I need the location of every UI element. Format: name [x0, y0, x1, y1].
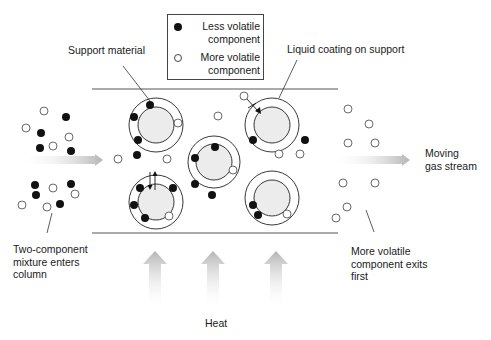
label-line: Moving: [425, 147, 477, 160]
less-volatile-particle: [67, 147, 75, 155]
less-volatile-particle: [130, 201, 138, 209]
more-volatile-particle: [165, 212, 173, 220]
less-volatile-particle: [134, 136, 142, 144]
less-volatile-particle: [36, 144, 44, 152]
less-volatile-particle: [32, 191, 40, 199]
label-moving-gas-stream: Moving gas stream: [425, 147, 477, 172]
more-volatile-particle: [214, 112, 222, 120]
less-volatile-particle: [254, 211, 262, 219]
more-volatile-particle: [240, 92, 248, 100]
more-volatile-particle: [371, 179, 379, 187]
more-volatile-particle: [163, 155, 171, 163]
more-volatile-particle: [65, 133, 73, 141]
heat-arrow: [143, 251, 167, 310]
more-volatile-particle: [283, 210, 291, 218]
less-volatile-particle: [146, 101, 154, 109]
more-volatile-particle: [275, 150, 283, 158]
heat-arrow: [264, 251, 288, 310]
less-volatile-particle: [37, 129, 45, 137]
more-volatile-particle: [343, 203, 351, 211]
more-volatile-particle: [114, 155, 122, 163]
label-liquid-coating: Liquid coating on support: [287, 43, 404, 56]
label-line: More volatile: [351, 245, 427, 258]
label-heat: Heat: [205, 317, 227, 330]
label-line: mixture enters: [13, 256, 88, 269]
less-volatile-particle: [133, 151, 141, 159]
more-volatile-particle: [344, 139, 352, 147]
heat-arrow: [201, 251, 225, 310]
label-line: gas stream: [425, 160, 477, 173]
less-volatile-particle: [249, 201, 257, 209]
more-volatile-particle: [22, 124, 30, 132]
support-bead: [245, 171, 299, 225]
label-support-material: Support material: [68, 44, 145, 57]
less-volatile-particle: [67, 180, 75, 188]
less-volatile-particle: [211, 143, 219, 151]
support-core: [138, 107, 174, 143]
less-volatile-particle: [136, 184, 144, 192]
less-volatile-particle: [130, 113, 138, 121]
more-volatile-particle: [371, 139, 379, 147]
more-volatile-particle: [365, 120, 373, 128]
open-circle-icon: [174, 54, 182, 62]
label-volatile-exits-first: More volatile component exits first: [351, 245, 427, 283]
less-volatile-particle: [191, 154, 199, 162]
more-volatile-particle: [43, 203, 51, 211]
less-volatile-particle: [141, 214, 149, 222]
label-line: column: [13, 268, 88, 281]
less-volatile-particle: [31, 181, 39, 189]
more-volatile-particle: [174, 119, 182, 127]
less-volatile-particle: [56, 200, 64, 208]
less-volatile-particle: [169, 184, 177, 192]
filled-circle-icon: [174, 23, 182, 31]
flow-out-arrow: [333, 154, 410, 166]
more-volatile-particle: [344, 105, 352, 113]
label-line: first: [351, 270, 427, 283]
more-volatile-particle: [49, 184, 57, 192]
more-volatile-particle: [296, 150, 304, 158]
label-line: component exits: [351, 258, 427, 271]
more-volatile-particle: [49, 142, 57, 150]
less-volatile-particle: [301, 136, 309, 144]
legend: Less volatile component More volatile co…: [167, 14, 264, 80]
label-line: Two-component: [13, 243, 88, 256]
less-volatile-particle: [208, 191, 216, 199]
more-volatile-particle: [332, 214, 340, 222]
less-volatile-particle: [249, 136, 257, 144]
more-volatile-particle: [71, 190, 79, 198]
less-volatile-particle: [62, 113, 70, 121]
less-volatile-particle: [191, 180, 199, 188]
flow-in-arrow: [20, 154, 103, 166]
more-volatile-particle: [40, 107, 48, 115]
more-volatile-particle: [229, 166, 237, 174]
legend-label: Less volatile component: [188, 20, 260, 45]
more-volatile-particle: [18, 201, 26, 209]
label-mixture-enters: Two-component mixture enters column: [13, 243, 88, 281]
support-bead: [129, 175, 183, 229]
legend-label: More volatile component: [188, 51, 260, 76]
more-volatile-particle: [339, 179, 347, 187]
